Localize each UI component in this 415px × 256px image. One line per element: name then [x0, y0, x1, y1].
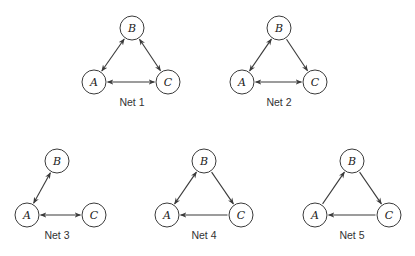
network-caption: Net 1 [119, 96, 144, 108]
node-A: A [303, 203, 327, 227]
node-label: C [164, 76, 173, 89]
node-label: A [22, 209, 31, 222]
network-1: ABCNet 1 [82, 16, 180, 108]
network-caption: Net 4 [191, 229, 216, 241]
node-C: C [377, 203, 401, 227]
node-A: A [82, 70, 106, 94]
edge-B-C-directed [287, 39, 308, 71]
node-label: A [237, 76, 246, 89]
edge-B-C-directed [360, 172, 382, 204]
node-label: A [310, 209, 319, 222]
edge-B-C-directed [212, 172, 234, 204]
edge-A-B-directed [323, 172, 345, 204]
network-3: ABCNet 3 [15, 149, 106, 241]
network-4: ABCNet 4 [155, 149, 253, 241]
node-B: B [340, 149, 364, 173]
node-B: B [192, 149, 216, 173]
node-B: B [120, 16, 144, 40]
edge-A-B-bidirectional [34, 173, 51, 203]
edge-A-B-bidirectional [102, 39, 124, 71]
network-caption: Net 3 [44, 229, 69, 241]
network-5: ABCNet 5 [303, 149, 401, 241]
node-label: C [237, 209, 246, 222]
edge-B-C-bidirectional [140, 39, 161, 71]
node-label: B [52, 155, 61, 168]
node-label: C [385, 209, 394, 222]
edge-A-B-bidirectional [175, 172, 197, 204]
node-label: B [127, 22, 136, 35]
node-C: C [229, 203, 253, 227]
node-label: C [311, 76, 320, 89]
network-diagrams: ABCNet 1ABCNet 2ABCNet 3ABCNet 4ABCNet 5 [0, 0, 415, 256]
node-A: A [155, 203, 179, 227]
node-label: B [347, 155, 356, 168]
node-C: C [82, 203, 106, 227]
network-caption: Net 2 [266, 96, 291, 108]
node-B: B [45, 149, 69, 173]
edge-A-B-bidirectional [250, 39, 272, 71]
node-label: A [162, 209, 171, 222]
node-B: B [267, 16, 291, 40]
node-C: C [303, 70, 327, 94]
node-label: B [199, 155, 208, 168]
node-label: B [274, 22, 283, 35]
network-2: ABCNet 2 [230, 16, 327, 108]
node-A: A [15, 203, 39, 227]
network-caption: Net 5 [339, 229, 364, 241]
node-C: C [156, 70, 180, 94]
node-label: C [90, 209, 99, 222]
node-A: A [230, 70, 254, 94]
node-label: A [89, 76, 98, 89]
